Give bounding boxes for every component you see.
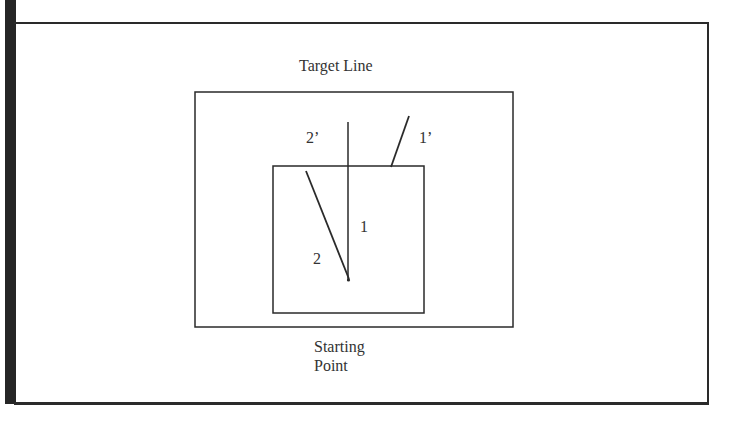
path-2-prime-label: 2’	[306, 129, 319, 147]
starting-point-label: Starting Point	[314, 337, 365, 375]
path-1-label: 1	[360, 218, 368, 236]
path-1-prime-label: 1’	[419, 129, 432, 147]
path-2-label: 2	[313, 250, 321, 268]
outer-target-box	[195, 92, 513, 327]
target-line-label: Target Line	[299, 57, 373, 75]
starting-point-line1: Starting	[314, 337, 365, 356]
convergence-point	[347, 278, 350, 281]
path-1-prime-line	[391, 116, 409, 167]
starting-point-line2: Point	[314, 356, 365, 375]
